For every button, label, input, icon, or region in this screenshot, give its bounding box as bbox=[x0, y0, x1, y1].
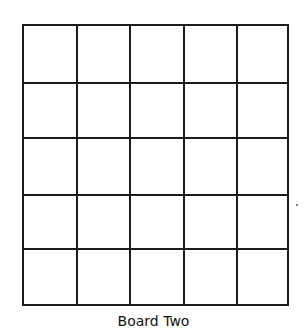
grid-row-divider bbox=[24, 194, 287, 196]
grid-row-divider bbox=[24, 137, 287, 139]
stray-mark bbox=[296, 204, 298, 206]
grid-column-divider bbox=[236, 26, 238, 304]
grid-column-divider bbox=[76, 26, 78, 304]
grid-row-divider bbox=[24, 248, 287, 250]
grid-column-divider bbox=[129, 26, 131, 304]
board-title: Board Two bbox=[0, 313, 307, 329]
game-board-grid bbox=[22, 24, 289, 306]
grid-row-divider bbox=[24, 82, 287, 84]
grid-column-divider bbox=[183, 26, 185, 304]
